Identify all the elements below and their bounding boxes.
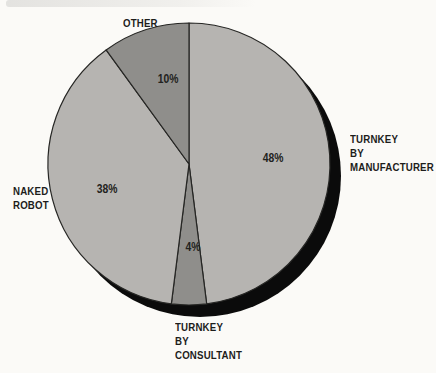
slice-value-label-turnkey-consultant: 4% bbox=[186, 240, 201, 254]
pie-chart-figure: 48% 4% 38% 10% OTHER TURNKEY BY MANUFACT… bbox=[0, 0, 436, 373]
slice-name-label-turnkey-manufacturer: TURNKEY BY MANUFACTURER bbox=[350, 132, 434, 174]
label-line: OTHER bbox=[123, 16, 158, 30]
label-line: MANUFACTURER bbox=[350, 160, 434, 174]
label-line: ROBOT bbox=[13, 198, 49, 212]
label-line: NAKED bbox=[13, 184, 49, 198]
label-line: TURNKEY bbox=[175, 320, 242, 334]
slice-name-label-other: OTHER bbox=[123, 16, 158, 30]
slice-value-label-naked-robot: 38% bbox=[97, 182, 118, 196]
label-line: BY bbox=[350, 146, 434, 160]
label-line: BY bbox=[175, 334, 242, 348]
label-line: CONSULTANT bbox=[175, 348, 242, 362]
pie-chart bbox=[0, 0, 436, 373]
slice-name-label-naked-robot: NAKED ROBOT bbox=[13, 184, 49, 212]
slice-name-label-turnkey-consultant: TURNKEY BY CONSULTANT bbox=[175, 320, 242, 362]
label-line: TURNKEY bbox=[350, 132, 434, 146]
slice-value-label-other: 10% bbox=[158, 72, 179, 86]
slice-value-label-turnkey-manufacturer: 48% bbox=[263, 151, 284, 165]
